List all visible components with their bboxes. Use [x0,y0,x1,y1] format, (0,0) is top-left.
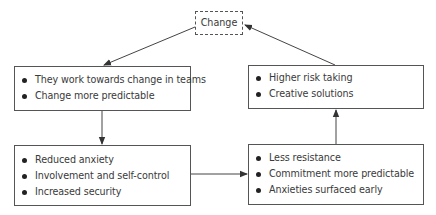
bullet-item: Increased security [15,184,190,200]
node-bottom-right: Less resistance Commitment more predicta… [248,144,424,205]
bullet-item: Anxieties surfaced early [249,182,423,198]
bullet-item: Creative solutions [249,86,423,102]
arrow-top-right-to-change [245,25,335,65]
change-label: Change [201,17,238,28]
bullet-item: Higher risk taking [249,70,423,86]
bullet-item: Commitment more predictable [249,166,423,182]
bullet-item: They work towards change in teams [15,72,190,88]
bullet-item: Change more predictable [15,88,190,104]
change-node: Change [195,11,243,35]
node-top-right: Higher risk taking Creative solutions [248,65,424,109]
bullet-item: Involvement and self-control [15,168,190,184]
bullet-item: Less resistance [249,150,423,166]
node-top-left: They work towards change in teams Change… [14,66,191,111]
bullet-item: Reduced anxiety [15,152,190,168]
arrow-change-to-top-left [104,27,195,65]
node-bottom-left: Reduced anxiety Involvement and self-con… [14,145,191,206]
